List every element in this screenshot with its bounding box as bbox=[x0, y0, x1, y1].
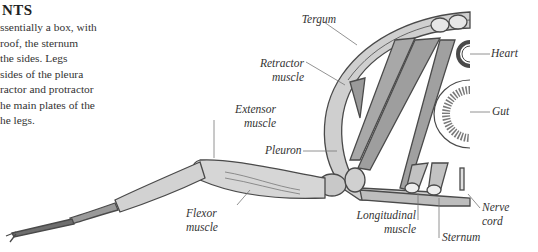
label-pleuron: Pleuron bbox=[265, 143, 302, 157]
nerve-cord-shape bbox=[460, 168, 464, 190]
label-flexor-muscle: Flexor muscle bbox=[186, 206, 218, 234]
dorsal-muscle-bundle bbox=[431, 18, 449, 32]
label-gut: Gut bbox=[492, 104, 509, 118]
tarsus-shape bbox=[70, 203, 118, 224]
label-nerve-cord: Nerve cord bbox=[482, 200, 509, 228]
label-extensor-muscle: Extensor muscle bbox=[210, 102, 276, 130]
retractor-muscle bbox=[350, 78, 365, 118]
label-sternum: Sternum bbox=[442, 230, 480, 244]
label-retractor-muscle: Retractor muscle bbox=[240, 56, 304, 84]
label-tergum: Tergum bbox=[286, 12, 336, 26]
label-longitudinal-muscle: Longitudinal muscle bbox=[340, 208, 416, 236]
tibia-shape bbox=[115, 162, 205, 212]
femur-shape bbox=[193, 160, 326, 199]
label-heart: Heart bbox=[491, 46, 518, 60]
